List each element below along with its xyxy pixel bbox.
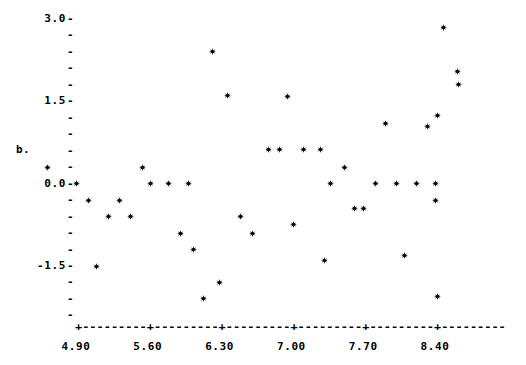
- data-point: [440, 24, 447, 31]
- data-point: [216, 279, 223, 286]
- x-axis-tick-label: 5.60: [118, 340, 178, 353]
- y-axis-tick-mark: -: [67, 227, 74, 238]
- data-point: [382, 120, 389, 127]
- data-point: [165, 180, 172, 187]
- data-point: [455, 81, 462, 88]
- x-axis-tick-label: 7.00: [261, 340, 321, 353]
- y-axis-tick-mark: -: [67, 62, 74, 73]
- data-point: [224, 92, 231, 99]
- data-point: [290, 221, 297, 228]
- x-axis-tick-label: 8.40: [405, 340, 465, 353]
- data-point: [284, 93, 291, 100]
- data-point: [276, 146, 283, 153]
- data-point: [190, 246, 197, 253]
- data-point: [85, 197, 92, 204]
- y-axis-tick-mark: -: [67, 260, 74, 271]
- data-point: [249, 230, 256, 237]
- data-point: [434, 112, 441, 119]
- data-point: [413, 180, 420, 187]
- data-point: [93, 263, 100, 270]
- data-point: [432, 180, 439, 187]
- data-point: [127, 213, 134, 220]
- y-axis-tick-mark: -: [67, 161, 74, 172]
- y-axis-tick-mark: -: [67, 13, 74, 24]
- data-point: [209, 48, 216, 55]
- y-axis-tick-mark: -: [67, 145, 74, 156]
- y-axis-tick-mark: -: [67, 211, 74, 222]
- y-axis-tick-mark: -: [67, 276, 74, 287]
- data-point: [177, 230, 184, 237]
- data-point: [401, 252, 408, 259]
- y-axis-title: b.: [16, 143, 30, 156]
- data-point: [317, 146, 324, 153]
- x-axis-tick-label: 6.30: [190, 340, 250, 353]
- data-point: [321, 257, 328, 264]
- data-point: [116, 197, 123, 204]
- data-point: [351, 205, 358, 212]
- data-point: [424, 123, 431, 130]
- y-axis-tick-mark: -: [67, 293, 74, 304]
- y-axis-tick-mark: -: [67, 128, 74, 139]
- data-point: [300, 146, 307, 153]
- data-point: [147, 180, 154, 187]
- y-axis-tick-mark: -: [67, 95, 74, 106]
- y-axis-tick-mark: -: [67, 79, 74, 90]
- data-point: [372, 180, 379, 187]
- data-point: [105, 213, 112, 220]
- y-axis-tick-mark: -: [67, 112, 74, 123]
- y-axis-tick-label: 1.5: [18, 94, 66, 107]
- data-point: [44, 164, 51, 171]
- data-point: [185, 180, 192, 187]
- x-axis-tick-label: 7.70: [333, 340, 393, 353]
- x-axis-tick-label: 4.90: [46, 340, 106, 353]
- data-point: [360, 205, 367, 212]
- y-axis-tick-label: -1.5: [18, 259, 66, 272]
- data-point: [341, 164, 348, 171]
- data-point: [393, 180, 400, 187]
- y-axis-tick-mark: -: [67, 29, 74, 40]
- y-axis-tick-mark: -: [67, 309, 74, 320]
- y-axis-tick-label: 3.0: [18, 12, 66, 25]
- y-axis-tick-label: 0.0: [18, 177, 66, 190]
- data-point: [434, 293, 441, 300]
- scatter-plot-figure: b. 3.01.50.0-1.5 ------------------- +--…: [0, 0, 526, 365]
- data-point: [454, 68, 461, 75]
- data-point: [432, 197, 439, 204]
- y-axis-tick-mark: -: [67, 46, 74, 57]
- y-axis-tick-mark: -: [67, 194, 74, 205]
- data-point: [327, 180, 334, 187]
- data-point: [265, 146, 272, 153]
- y-axis-tick-mark: -: [67, 178, 74, 189]
- x-axis-line: +---------+---------+---------+---------…: [75, 321, 506, 332]
- y-axis-tick-mark: -: [67, 244, 74, 255]
- data-point: [200, 295, 207, 302]
- data-point: [237, 213, 244, 220]
- data-point: [139, 164, 146, 171]
